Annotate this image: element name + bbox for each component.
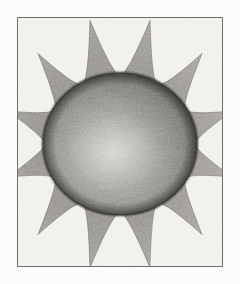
pencil-sun-drawing [0,0,240,284]
artwork-canvas: Sun graphite pencil drawing on paper [0,0,240,284]
inner-paper-grain [17,17,223,267]
framed-picture-area [0,0,240,284]
